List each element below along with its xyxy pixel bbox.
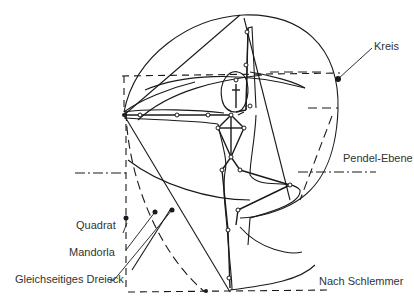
label-quadrat: Quadrat (76, 219, 116, 231)
label-mandorla: Mandorla (69, 246, 115, 258)
joint-markers (138, 30, 292, 280)
label-credit: Nach Schlemmer (319, 275, 403, 287)
label-dot-markers (122, 76, 341, 293)
label-gleichseitiges-dreieck: Gleichseitiges Dreieck (15, 273, 124, 285)
figure-skeleton (124, 28, 290, 288)
swing-arcs (124, 72, 315, 290)
triangle-shape (124, 15, 290, 292)
square-shape (122, 73, 340, 292)
label-pendel-ebene: Pendel-Ebene (343, 152, 413, 164)
inner-dashes (270, 72, 338, 200)
leader-lines (110, 48, 372, 281)
label-kreis: Kreis (374, 40, 399, 52)
